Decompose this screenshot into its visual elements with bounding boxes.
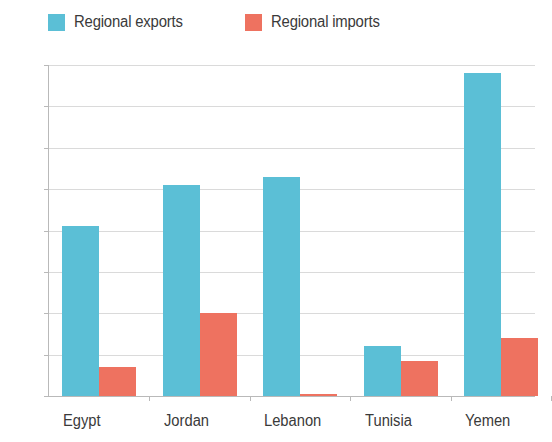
x-axis-label-lebanon: Lebanon <box>264 412 321 430</box>
y-tick-mark <box>44 396 49 397</box>
bar-jordan-exports <box>163 185 200 396</box>
plot-area: 0%10%20%30%40%50%60%70%80% <box>48 65 535 397</box>
bar-yemen-imports <box>501 338 538 396</box>
legend-swatch-icon-exports <box>48 14 65 31</box>
bar-jordan-imports <box>200 313 237 396</box>
legend-swatch-icon-imports <box>245 14 262 31</box>
bar-tunisia-exports <box>364 346 401 396</box>
bars-layer <box>49 65 535 396</box>
x-tick-mark <box>250 396 251 401</box>
bar-yemen-exports <box>464 73 501 396</box>
legend-label-imports: Regional imports <box>271 13 380 31</box>
bar-lebanon-exports <box>263 177 300 396</box>
legend-label-exports: Regional exports <box>74 13 183 31</box>
x-axis-label-tunisia: Tunisia <box>365 412 412 430</box>
bar-egypt-imports <box>99 367 136 396</box>
x-axis-label-egypt: Egypt <box>63 412 101 430</box>
x-axis-label-yemen: Yemen <box>465 412 510 430</box>
x-axis-label-jordan: Jordan <box>164 412 209 430</box>
legend-item-regional-imports: Regional imports <box>245 13 388 31</box>
legend-item-regional-exports: Regional exports <box>48 13 191 31</box>
chart-legend: Regional exports Regional imports <box>48 8 388 36</box>
bar-egypt-exports <box>62 226 99 396</box>
bar-tunisia-imports <box>401 361 438 396</box>
bar-lebanon-imports <box>300 394 337 396</box>
x-tick-mark <box>350 396 351 401</box>
x-tick-mark <box>149 396 150 401</box>
x-tick-mark <box>451 396 452 401</box>
